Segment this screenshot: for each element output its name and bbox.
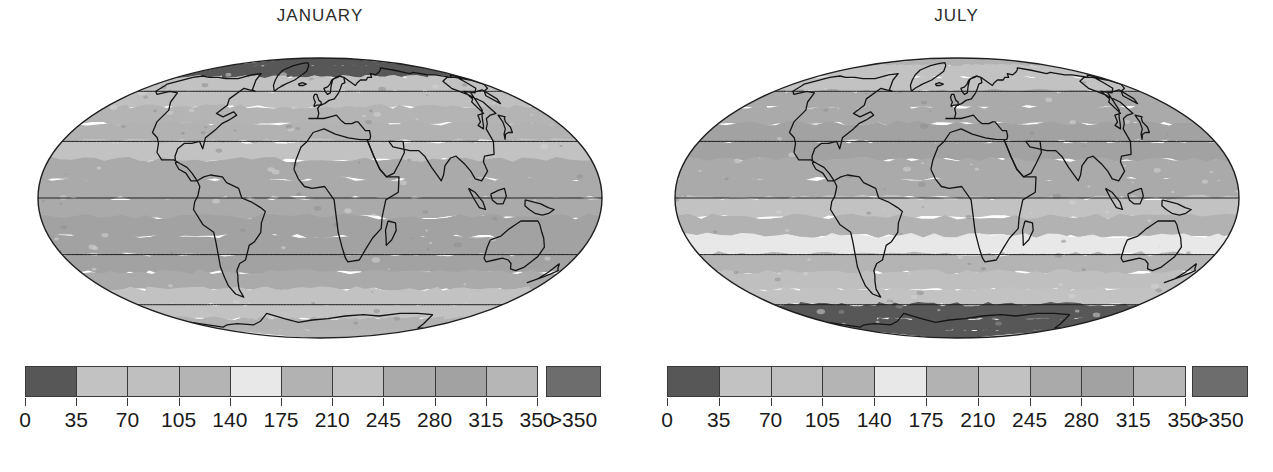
mottle-patch	[957, 256, 962, 259]
colorbar-tick-label-175: 175	[263, 408, 298, 432]
colorbar-tick-210	[332, 398, 333, 406]
colorbar-bin-4	[231, 367, 282, 396]
colorbar-tick-280	[1081, 398, 1082, 406]
mottle-patch	[225, 73, 231, 77]
mottle-patch	[102, 233, 109, 237]
mottle-patch	[296, 127, 300, 130]
mottle-patch	[371, 291, 373, 292]
colorbar-tick-label-280: 280	[1064, 408, 1099, 432]
mottle-patch	[463, 283, 466, 285]
mottle-patch	[143, 96, 148, 99]
map-july	[640, 48, 1273, 353]
colorbar-tick-105	[822, 398, 823, 406]
colorbar-tick-label-140: 140	[212, 408, 247, 432]
colorbar-tick-175	[281, 398, 282, 406]
mottle-patch	[920, 123, 928, 128]
colorbar-tick-210	[978, 398, 979, 406]
mottle-patch	[492, 217, 497, 220]
mottle-patch	[974, 168, 978, 171]
mottle-patch	[286, 125, 292, 129]
panel-january: JANUARY 03570105140175210245280315350>35…	[0, 0, 640, 472]
colorbar-overflow-label: >350	[550, 408, 597, 432]
mottle-patch	[807, 258, 811, 261]
colorbar-bin-7	[1031, 367, 1083, 396]
colorbar-tick-35	[719, 398, 720, 406]
mottle-patch	[734, 159, 741, 164]
colorbar-tick-label-210: 210	[315, 408, 350, 432]
colorbar-tick-label-315: 315	[468, 408, 503, 432]
mottle-patch	[724, 177, 729, 180]
mottle-patch	[1123, 165, 1126, 167]
colorbar-tick-label-245: 245	[366, 408, 401, 432]
mottle-patch	[429, 242, 432, 244]
mottle-patch	[823, 108, 828, 111]
mottle-patch	[296, 193, 302, 197]
mottle-patch	[908, 273, 911, 275]
mottle-patch	[311, 79, 315, 81]
mottle-patch	[233, 300, 240, 304]
colorbar-bin-2	[772, 367, 824, 396]
mottle-patch	[234, 130, 237, 132]
colorbar-tick-350	[537, 398, 538, 406]
colorbar-bin-9	[487, 367, 537, 396]
mottle-patch	[1124, 120, 1130, 124]
colorbar-bin-8	[436, 367, 487, 396]
mottle-patch	[785, 229, 789, 232]
mottle-patch	[916, 290, 923, 295]
mottle-patch	[712, 231, 716, 234]
mottle-patch	[92, 268, 97, 271]
mottle-patch	[1155, 288, 1161, 292]
mottle-patch	[1030, 212, 1033, 214]
mottle-patch	[373, 112, 380, 117]
mottle-patch	[333, 223, 339, 227]
mottle-patch	[89, 244, 97, 249]
colorbar-bin-7	[384, 367, 435, 396]
mottle-patch	[1074, 310, 1079, 313]
mottle-patch	[928, 110, 931, 112]
colorbar-tick-35	[76, 398, 77, 406]
mottle-patch	[937, 309, 940, 311]
map-svg-july	[657, 48, 1257, 348]
panel-july: JULY 03570105140175210245280315350>350	[640, 0, 1273, 472]
mottle-patch	[212, 198, 220, 203]
mottle-patch	[921, 206, 924, 208]
mottle-patch	[995, 321, 1002, 325]
map-svg-january	[20, 48, 620, 348]
zonal-band--15	[677, 214, 1237, 239]
mottle-patch	[60, 202, 63, 204]
mottle-patch	[1054, 253, 1062, 258]
mottle-patch	[181, 132, 185, 135]
mottle-patch	[980, 267, 986, 271]
mottle-patch	[153, 110, 157, 112]
colorbar-tick-label-70: 70	[116, 408, 139, 432]
colorbar-tick-315	[486, 398, 487, 406]
mottle-patch	[362, 115, 366, 118]
mottle-patch	[965, 215, 971, 219]
mottle-patch	[882, 209, 884, 210]
colorbar-bin-5	[282, 367, 333, 396]
mottle-patch	[462, 83, 467, 86]
mottle-patch	[400, 181, 407, 186]
colorbar-main-july	[667, 366, 1186, 397]
mottle-patch	[837, 108, 840, 110]
mottle-patch	[683, 195, 686, 197]
mottle-patch	[1082, 145, 1085, 147]
mottle-patch	[240, 228, 246, 232]
mottle-patch	[369, 110, 373, 113]
colorbar-tick-245	[383, 398, 384, 406]
mottle-patch	[372, 214, 376, 217]
mottle-patch	[394, 317, 400, 321]
colorbar-labels-july: 03570105140175210245280315350>350	[667, 408, 1186, 434]
colorbar-tick-label-0: 0	[661, 408, 673, 432]
mottle-patch	[883, 189, 885, 190]
mottle-patch	[1186, 251, 1191, 254]
colorbar-tick-140	[874, 398, 875, 406]
mottle-patch	[454, 242, 462, 247]
colorbar-tick-280	[435, 398, 436, 406]
mottle-patch	[1153, 168, 1160, 173]
mottle-patch	[1092, 313, 1099, 318]
zonal-band-5	[675, 176, 1239, 201]
mottle-patch	[530, 114, 533, 116]
mottle-patch	[875, 321, 879, 324]
colorbar-tick-label-280: 280	[417, 408, 452, 432]
